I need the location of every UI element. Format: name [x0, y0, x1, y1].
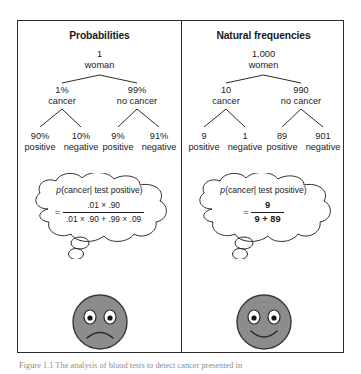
node-value: 1% — [48, 85, 76, 96]
tree-leaf-cancer-positive: 90% positive — [24, 131, 55, 154]
fraction: .01 × .90 .01 × .90 + .99 × .09 — [63, 200, 144, 225]
node-value: 990 — [281, 85, 321, 96]
fraction-denominator: .01 × .90 + .99 × .09 — [63, 214, 144, 225]
tree-leaf-nocancer-positive: 89 positive — [266, 131, 297, 154]
node-label: positive — [102, 142, 133, 153]
bubble-content: p(cancer| test positive) = .01 × .90 .01… — [24, 185, 176, 225]
node-label: positive — [188, 142, 219, 153]
node-label: positive — [24, 142, 55, 153]
node-label: cancer — [212, 96, 240, 107]
node-value: 10% — [64, 131, 99, 142]
bubble-formula-title: p(cancer| test positive) — [24, 185, 176, 195]
tree-node-no-cancer: 99% no cancer — [117, 85, 157, 108]
fraction-numerator: 9 — [251, 200, 283, 211]
tree-leaf-nocancer-negative: 901 negative — [306, 131, 341, 154]
fraction-numerator: .01 × .90 — [63, 200, 144, 211]
node-label: no cancer — [281, 96, 321, 107]
tree-node-cancer: 1% cancer — [48, 85, 76, 108]
probability-condition: (cancer| test positive) — [225, 185, 307, 195]
equals-sign: = — [55, 207, 60, 217]
node-value: 9 — [188, 131, 219, 142]
thought-bubble-natural-frequencies: p(cancer| test positive) = 9 9 + 89 — [188, 173, 340, 259]
node-value: 90% — [24, 131, 55, 142]
tree-leaf-nocancer-positive: 9% positive — [102, 131, 133, 154]
bubble-formula-title: p(cancer| test positive) — [188, 185, 340, 195]
node-value: 89 — [266, 131, 297, 142]
node-label: positive — [266, 142, 297, 153]
node-value: 1 — [228, 131, 263, 142]
probability-condition: (cancer| test positive) — [61, 185, 143, 195]
tree-node-root: 1 woman — [85, 49, 115, 72]
node-value: 1,000 — [249, 49, 279, 60]
tree-leaf-cancer-positive: 9 positive — [188, 131, 219, 154]
bubble-equation: = 9 9 + 89 — [188, 200, 340, 225]
node-value: 1 — [85, 49, 115, 60]
fraction-bar — [63, 212, 144, 213]
node-label: negative — [228, 142, 263, 153]
node-value: 9% — [102, 131, 133, 142]
node-label: no cancer — [117, 96, 157, 107]
tree-leaf-cancer-negative: 1 negative — [228, 131, 263, 154]
tree-leaf-nocancer-negative: 91% negative — [142, 131, 177, 154]
panel-probabilities: Probabilities 1 woman 1% cancer — [18, 21, 181, 352]
happy-face — [235, 293, 293, 351]
thought-bubble-probabilities: p(cancer| test positive) = .01 × .90 .01… — [24, 173, 176, 259]
tree-node-root: 1,000 women — [249, 49, 279, 72]
sad-face — [71, 293, 129, 351]
node-value: 901 — [306, 131, 341, 142]
figure-frame: Probabilities 1 woman 1% cancer — [17, 20, 344, 353]
node-label: negative — [306, 142, 341, 153]
tree-leaf-cancer-negative: 10% negative — [64, 131, 99, 154]
node-label: negative — [142, 142, 177, 153]
panel-natural-frequencies: Natural frequencies 1,000 women 10 cance… — [182, 21, 345, 352]
node-value: 99% — [117, 85, 157, 96]
node-label: woman — [85, 60, 115, 71]
node-label: women — [249, 60, 279, 71]
bubble-content: p(cancer| test positive) = 9 9 + 89 — [188, 185, 340, 225]
node-value: 91% — [142, 131, 177, 142]
tree-node-no-cancer: 990 no cancer — [281, 85, 321, 108]
node-value: 10 — [212, 85, 240, 96]
fraction-denominator: 9 + 89 — [251, 214, 283, 225]
tree-node-cancer: 10 cancer — [212, 85, 240, 108]
figure-caption: Figure 1.1 The analysis of blood tests t… — [19, 361, 344, 371]
equals-sign: = — [243, 207, 248, 217]
bubble-equation: = .01 × .90 .01 × .90 + .99 × .09 — [24, 200, 176, 225]
fraction: 9 9 + 89 — [251, 200, 283, 225]
node-label: cancer — [48, 96, 76, 107]
node-label: negative — [64, 142, 99, 153]
